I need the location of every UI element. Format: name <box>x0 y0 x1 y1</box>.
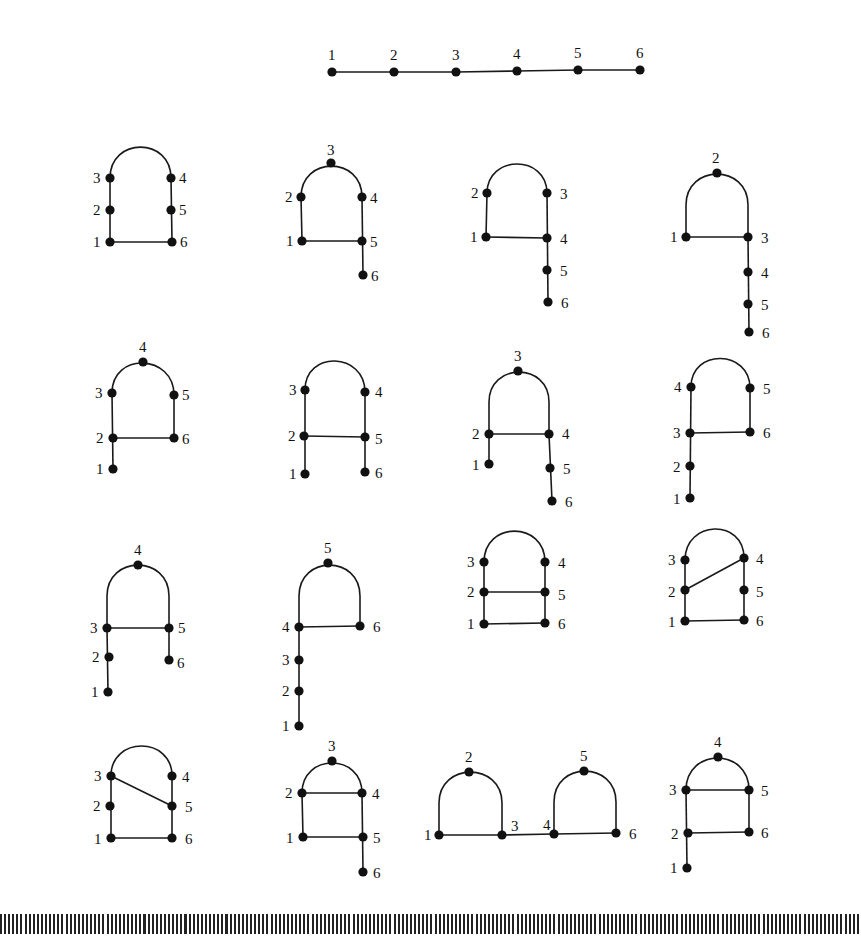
vertex-2 <box>296 192 305 201</box>
vertex-label: 6 <box>375 465 383 481</box>
vertex-3 <box>680 555 689 564</box>
edge <box>688 832 749 833</box>
vertex-5 <box>323 558 332 567</box>
vertex-4 <box>360 387 369 396</box>
vertex-label: 1 <box>328 47 336 63</box>
edge <box>554 833 616 834</box>
edge <box>685 558 744 590</box>
vertex-label: 3 <box>282 652 290 668</box>
vertex-label: 6 <box>761 825 769 841</box>
vertex-label: 4 <box>375 384 383 400</box>
graph-g7: 324156 <box>472 348 573 510</box>
vertex-label: 4 <box>714 734 722 750</box>
vertex-label: 6 <box>763 425 771 441</box>
vertex-1 <box>108 464 117 473</box>
graph-path: 123456 <box>327 45 644 77</box>
graph-g2: 321456 <box>285 142 379 284</box>
vertex-label: 2 <box>96 430 104 446</box>
vertex-5 <box>745 383 754 392</box>
vertex-label: 4 <box>674 379 682 395</box>
vertex-label: 3 <box>94 768 102 784</box>
vertex-5 <box>739 585 748 594</box>
arc-edge <box>439 772 502 803</box>
vertex-label: 6 <box>373 619 381 635</box>
vertex-label: 1 <box>668 614 676 630</box>
arc-edge <box>111 746 172 776</box>
vertex-6 <box>358 270 367 279</box>
vertex-2 <box>108 433 117 442</box>
vertex-label: 1 <box>286 830 294 846</box>
vertex-label: 4 <box>560 231 568 247</box>
vertex-6 <box>355 621 364 630</box>
vertex-6 <box>167 833 176 842</box>
graph-g9: 435261 <box>90 542 186 700</box>
arc-edge <box>487 164 547 193</box>
vertex-label: 5 <box>375 431 383 447</box>
vertex-label: 5 <box>763 381 771 397</box>
vertex-label: 5 <box>563 461 571 477</box>
vertex-1 <box>681 232 690 241</box>
vertex-label: 1 <box>467 616 475 632</box>
graph-g12: 342516 <box>668 529 764 630</box>
vertex-5 <box>579 766 588 775</box>
vertex-3 <box>105 173 114 182</box>
vertex-5 <box>166 205 175 214</box>
vertex-label: 1 <box>472 457 480 473</box>
vertex-3 <box>107 388 116 397</box>
vertex-6 <box>540 618 549 627</box>
graph-g4: 213456 <box>670 150 770 341</box>
graph-g16: 435261 <box>669 734 769 876</box>
vertex-label: 4 <box>513 46 521 62</box>
vertex-3 <box>327 756 336 765</box>
vertex-label: 3 <box>327 142 335 158</box>
vertex-5 <box>357 236 366 245</box>
vertex-label: 4 <box>543 817 551 833</box>
vertex-5 <box>744 785 753 794</box>
vertex-label: 5 <box>761 297 769 313</box>
vertex-2 <box>683 828 692 837</box>
vertex-1 <box>481 232 490 241</box>
arc-edge <box>686 174 748 205</box>
vertex-label: 5 <box>182 387 190 403</box>
edge <box>685 620 744 621</box>
arc-edge <box>686 758 749 790</box>
vertex-label: 2 <box>712 150 720 166</box>
vertex-label: 1 <box>96 461 104 477</box>
vertex-label: 2 <box>467 584 475 600</box>
vertex-label: 6 <box>636 45 644 61</box>
edge <box>456 71 517 72</box>
barcode-strip <box>0 914 861 934</box>
vertex-label: 3 <box>289 382 297 398</box>
edge <box>486 193 487 237</box>
vertex-label: 1 <box>282 718 290 734</box>
vertex-label: 3 <box>467 554 475 570</box>
vertex-4 <box>512 66 521 75</box>
vertex-4 <box>549 829 558 838</box>
vertex-label: 2 <box>671 826 679 842</box>
vertex-5 <box>540 587 549 596</box>
vertex-3 <box>681 785 690 794</box>
vertex-label: 2 <box>92 649 100 665</box>
vertex-label: 5 <box>178 620 186 636</box>
vertex-label: 1 <box>94 831 102 847</box>
vertex-label: 2 <box>282 683 290 699</box>
vertex-label: 2 <box>285 785 293 801</box>
vertex-label: 6 <box>177 655 185 671</box>
vertex-label: 6 <box>762 325 770 341</box>
vertex-label: 6 <box>371 268 379 284</box>
vertex-4 <box>743 267 752 276</box>
vertex-2 <box>482 188 491 197</box>
vertex-3 <box>300 385 309 394</box>
vertex-2 <box>484 429 493 438</box>
vertex-6 <box>745 427 754 436</box>
vertex-label: 5 <box>756 584 764 600</box>
vertex-label: 5 <box>560 263 568 279</box>
vertex-label: 3 <box>673 425 681 441</box>
vertex-label: 1 <box>91 684 99 700</box>
vertex-1 <box>298 832 307 841</box>
vertex-4 <box>138 357 147 366</box>
vertex-label: 4 <box>282 619 290 635</box>
vertex-label: 3 <box>452 47 460 63</box>
vertex-3 <box>106 771 115 780</box>
vertex-2 <box>294 686 303 695</box>
